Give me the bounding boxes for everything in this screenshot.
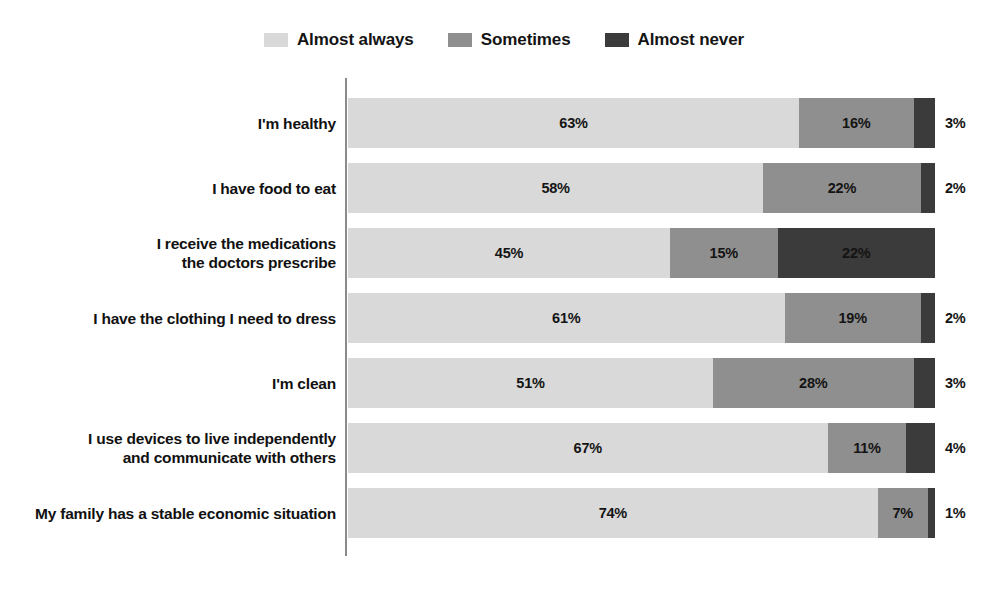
bar-segment-almost-never bbox=[921, 163, 935, 213]
legend-item-sometimes: Sometimes bbox=[448, 30, 571, 50]
category-label-line: I have the clothing I need to dress bbox=[93, 309, 336, 328]
legend-swatch-sometimes bbox=[448, 33, 472, 47]
bar-segment-sometimes: 15% bbox=[670, 228, 777, 278]
segment-value-label: 7% bbox=[892, 506, 913, 521]
row-i-have-food-to-eat: I have food to eat2%58%22% bbox=[0, 163, 1008, 213]
segment-value-label: 22% bbox=[842, 246, 870, 261]
segment-value-label: 22% bbox=[828, 181, 856, 196]
bar-segment-sometimes: 19% bbox=[785, 293, 921, 343]
bar-segment-almost-always: 61% bbox=[348, 293, 785, 343]
legend-label-almost-always: Almost always bbox=[297, 30, 414, 50]
segment-value-label: 67% bbox=[574, 441, 602, 456]
category-label: I have food to eat bbox=[16, 163, 336, 213]
bar-segment-sometimes: 28% bbox=[713, 358, 913, 408]
category-label: I'm clean bbox=[16, 358, 336, 408]
bar-segment-almost-never bbox=[914, 98, 935, 148]
row-my-family-has-a-stable-economic-situation: My family has a stable economic situatio… bbox=[0, 488, 1008, 538]
category-label-line: My family has a stable economic situatio… bbox=[35, 504, 336, 523]
segment-value-label: 15% bbox=[710, 246, 738, 261]
bar-segment-sometimes: 22% bbox=[763, 163, 920, 213]
category-label: My family has a stable economic situatio… bbox=[16, 488, 336, 538]
row-im-healthy: I'm healthy3%63%16% bbox=[0, 98, 1008, 148]
segment-value-label: 51% bbox=[516, 376, 544, 391]
chart-legend: Almost alwaysSometimesAlmost never bbox=[0, 30, 1008, 50]
stacked-bar: 74%7% bbox=[348, 488, 935, 538]
legend-swatch-almost-never bbox=[605, 33, 629, 47]
segment-value-label-outside: 2% bbox=[945, 163, 966, 213]
bar-segment-almost-always: 45% bbox=[348, 228, 670, 278]
segment-value-label-outside: 3% bbox=[945, 358, 966, 408]
segment-value-label: 11% bbox=[853, 441, 881, 456]
bar-segment-almost-always: 74% bbox=[348, 488, 878, 538]
segment-value-label: 58% bbox=[541, 181, 569, 196]
category-label-line: I'm healthy bbox=[258, 114, 336, 133]
bar-segment-sometimes: 7% bbox=[878, 488, 928, 538]
bar-segment-almost-never bbox=[928, 488, 935, 538]
segment-value-label: 63% bbox=[559, 116, 587, 131]
segment-value-label: 28% bbox=[799, 376, 827, 391]
category-label-line: I'm clean bbox=[272, 374, 336, 393]
bar-segment-almost-never: 22% bbox=[778, 228, 935, 278]
bar-segment-sometimes: 11% bbox=[828, 423, 907, 473]
legend-label-almost-never: Almost never bbox=[638, 30, 745, 50]
category-label: I have the clothing I need to dress bbox=[16, 293, 336, 343]
row-i-receive-the-medications: I receive the medicationsthe doctors pre… bbox=[0, 228, 1008, 278]
category-label-line: and communicate with others bbox=[123, 448, 336, 467]
category-label: I receive the medicationsthe doctors pre… bbox=[16, 228, 336, 278]
legend-item-almost-never: Almost never bbox=[605, 30, 745, 50]
legend-swatch-almost-always bbox=[264, 33, 288, 47]
stacked-bar-chart: I'm healthy3%63%16%I have food to eat2%5… bbox=[0, 78, 1008, 558]
category-label: I use devices to live independentlyand c… bbox=[16, 423, 336, 473]
legend-item-almost-always: Almost always bbox=[264, 30, 414, 50]
bar-segment-almost-always: 67% bbox=[348, 423, 828, 473]
bar-segment-almost-never bbox=[914, 358, 935, 408]
segment-value-label: 61% bbox=[552, 311, 580, 326]
legend-label-sometimes: Sometimes bbox=[481, 30, 571, 50]
category-label-line: I receive the medications bbox=[157, 234, 336, 253]
stacked-bar: 67%11% bbox=[348, 423, 935, 473]
segment-value-label-outside: 1% bbox=[945, 488, 966, 538]
category-label: I'm healthy bbox=[16, 98, 336, 148]
category-label-line: I use devices to live independently bbox=[88, 429, 336, 448]
segment-value-label-outside: 2% bbox=[945, 293, 966, 343]
bar-segment-almost-always: 51% bbox=[348, 358, 713, 408]
bar-segment-sometimes: 16% bbox=[799, 98, 914, 148]
segment-value-label: 45% bbox=[495, 246, 523, 261]
segment-value-label: 74% bbox=[599, 506, 627, 521]
bar-segment-almost-never bbox=[921, 293, 935, 343]
stacked-bar: 58%22% bbox=[348, 163, 935, 213]
row-im-clean: I'm clean3%51%28% bbox=[0, 358, 1008, 408]
segment-value-label-outside: 4% bbox=[945, 423, 966, 473]
bar-segment-almost-always: 58% bbox=[348, 163, 763, 213]
stacked-bar: 61%19% bbox=[348, 293, 935, 343]
stacked-bar: 63%16% bbox=[348, 98, 935, 148]
bar-segment-almost-always: 63% bbox=[348, 98, 799, 148]
category-label-line: the doctors prescribe bbox=[182, 253, 336, 272]
row-i-use-devices: I use devices to live independentlyand c… bbox=[0, 423, 1008, 473]
segment-value-label: 19% bbox=[838, 311, 866, 326]
stacked-bar: 51%28% bbox=[348, 358, 935, 408]
category-label-line: I have food to eat bbox=[212, 179, 336, 198]
bar-segment-almost-never bbox=[906, 423, 935, 473]
stacked-bar: 45%15%22% bbox=[348, 228, 935, 278]
segment-value-label: 16% bbox=[842, 116, 870, 131]
segment-value-label-outside: 3% bbox=[945, 98, 966, 148]
row-i-have-the-clothing: I have the clothing I need to dress2%61%… bbox=[0, 293, 1008, 343]
